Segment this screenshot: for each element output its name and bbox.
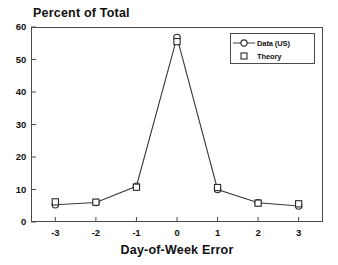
square-marker-icon — [231, 49, 257, 63]
y-tick-label: 20 — [4, 151, 26, 162]
x-tick-label: 1 — [206, 227, 230, 238]
x-tick-label: -2 — [84, 227, 108, 238]
legend-label-theory: Theory — [257, 52, 281, 61]
legend-entry-data-us: Data (US) — [231, 36, 314, 50]
x-tick-label: -1 — [124, 227, 148, 238]
chart-figure: Percent of Total 0102030405060 -3-2-1012… — [0, 0, 338, 265]
x-axis-title: Day-of-Week Error — [31, 243, 323, 257]
x-tick-label: -3 — [43, 227, 67, 238]
legend-label-data-us: Data (US) — [257, 39, 290, 48]
chart-legend: Data (US) Theory — [230, 33, 315, 64]
x-tick-label: 3 — [287, 227, 311, 238]
y-tick-label: 50 — [4, 54, 26, 65]
y-tick-label: 30 — [4, 119, 26, 130]
y-tick-label: 40 — [4, 86, 26, 97]
x-tick-label: 2 — [246, 227, 270, 238]
y-tick-marks — [31, 27, 36, 222]
y-tick-label: 60 — [4, 21, 26, 32]
circle-marker-icon — [231, 36, 257, 50]
legend-entry-theory: Theory — [231, 49, 314, 63]
x-tick-marks — [55, 217, 298, 222]
x-tick-label: 0 — [165, 227, 189, 238]
y-tick-label: 0 — [4, 216, 26, 227]
y-tick-label: 10 — [4, 184, 26, 195]
